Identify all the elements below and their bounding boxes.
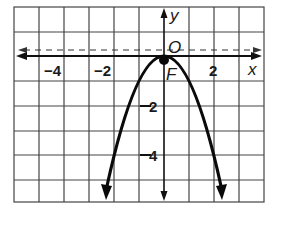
- y-axis: [161, 8, 168, 201]
- curve-arrow-right-icon: [216, 184, 227, 200]
- origin-label: O: [168, 38, 181, 57]
- parabola-graph: y x O F −4 −2 2 2 4: [0, 0, 283, 228]
- curve-arrow-left-icon: [101, 184, 112, 200]
- arrow-up-icon: [161, 8, 168, 18]
- y-tick-label: 4: [149, 147, 158, 164]
- x-tick-label: −4: [44, 62, 62, 79]
- arrow-right-icon: [251, 52, 262, 60]
- focus-label: F: [166, 65, 178, 84]
- x-axis-label: x: [247, 60, 257, 79]
- y-axis-label: y: [169, 6, 180, 25]
- grid: [14, 7, 264, 202]
- arrow-right-icon: [253, 47, 262, 53]
- y-tick-label: 2: [149, 98, 157, 115]
- directrix-line: [18, 47, 262, 53]
- arrow-left-icon: [18, 47, 27, 53]
- x-tick-label: −2: [94, 62, 111, 79]
- x-tick-label: 2: [209, 62, 217, 79]
- arrow-down-icon: [161, 191, 168, 201]
- arrow-left-icon: [16, 52, 27, 60]
